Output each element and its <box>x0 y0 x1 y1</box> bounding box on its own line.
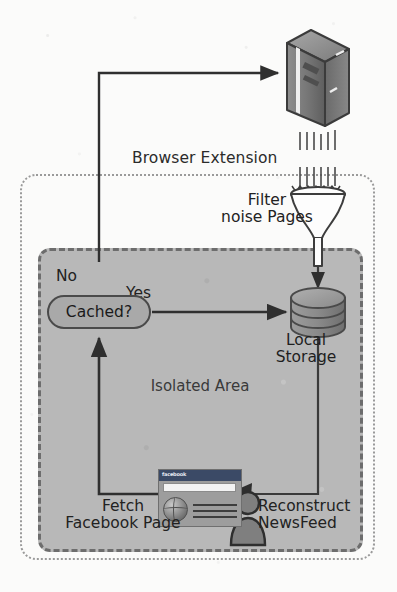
content-line <box>193 510 237 512</box>
filter-noise-pages-label: Filter noise Pages <box>212 192 322 227</box>
facebook-brand-label: facebook <box>162 471 186 477</box>
content-line <box>193 516 237 518</box>
edge-label-no: No <box>56 268 77 285</box>
cached-decision-label: Cached? <box>66 303 132 321</box>
content-line <box>193 504 237 506</box>
local-storage-label: Local Storage <box>258 332 354 367</box>
isolated-area-label: Isolated Area <box>110 378 290 395</box>
browser-titlebar: facebook <box>159 470 241 481</box>
content-text-lines <box>193 497 237 522</box>
browser-extension-label: Browser Extension <box>128 150 336 167</box>
browser-search-bar[interactable] <box>163 483 236 492</box>
reconstruct-newsfeed-label: Reconstruct NewsFeed <box>258 498 376 533</box>
cached-decision-node[interactable]: Cached? <box>47 295 151 329</box>
fetch-facebook-page-label: Fetch Facebook Page <box>58 498 188 533</box>
